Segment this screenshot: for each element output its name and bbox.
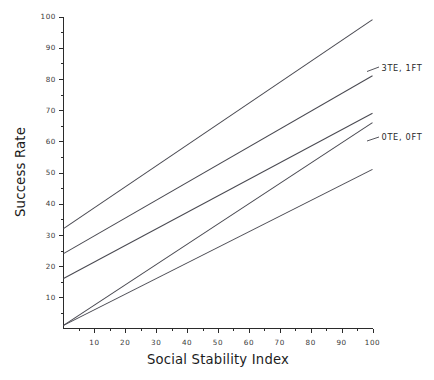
y-tick-label: 70 — [46, 106, 56, 115]
x-tick-label: 80 — [306, 338, 316, 347]
x-tick-label: 100 — [365, 338, 381, 347]
x-tick-label: 30 — [151, 338, 161, 347]
series-lines — [64, 20, 373, 326]
y-tick-label: 90 — [46, 43, 56, 52]
y-tick-label: 30 — [46, 231, 56, 240]
y-axis-tick-labels: 102030405060708090100 — [40, 12, 56, 302]
x-tick-label: 60 — [244, 338, 254, 347]
y-tick-label: 10 — [46, 293, 56, 302]
chart-axes — [64, 17, 373, 329]
leader-line-upper — [367, 67, 379, 72]
y-tick-label: 40 — [46, 199, 56, 208]
series-line-line-3 — [64, 113, 373, 278]
y-tick-label: 50 — [46, 168, 56, 177]
series-annotation-lower: 0TE, 0FT — [382, 132, 423, 142]
x-tick-label: 50 — [213, 338, 223, 347]
line-chart: 102030405060708090100 102030405060708090… — [0, 0, 434, 380]
chart-page: 102030405060708090100 102030405060708090… — [0, 0, 434, 380]
series-line-line-5 — [64, 169, 373, 325]
x-tick-label: 10 — [89, 338, 99, 347]
x-tick-label: 90 — [336, 338, 346, 347]
series-line-line-1 — [64, 20, 373, 229]
y-tick-label: 80 — [46, 75, 56, 84]
y-axis-title: Success Rate — [13, 127, 28, 217]
y-tick-label: 20 — [46, 262, 56, 271]
x-axis-tick-labels: 102030405060708090100 — [89, 338, 380, 347]
x-tick-label: 70 — [275, 338, 285, 347]
series-line-line-4 — [64, 123, 373, 326]
y-tick-label: 60 — [46, 137, 56, 146]
series-annotation-upper: 3TE, 1FT — [382, 63, 423, 73]
x-tick-label: 20 — [120, 338, 130, 347]
series-line-line-2 — [64, 76, 373, 254]
leader-line-lower — [367, 137, 379, 141]
x-axis-title: Social Stability Index — [147, 352, 289, 367]
y-tick-label: 100 — [40, 12, 56, 21]
x-tick-label: 40 — [182, 338, 192, 347]
